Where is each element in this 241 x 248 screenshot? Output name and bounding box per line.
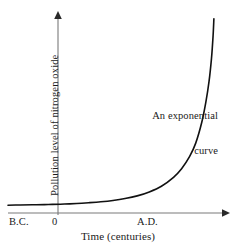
curve-annotation-line-2: curve [118,145,218,157]
curve-annotation: An exponential curve [118,86,218,180]
x-tick-label-zero: 0 [52,216,57,228]
x-axis-arrowhead [222,209,230,217]
y-axis-label: Pollution level of nitrogen oxide [49,0,61,196]
x-tick-label-ad: A.D. [137,216,158,228]
x-tick-label-bc: B.C. [9,216,29,228]
exponential-curve-figure: Pollution level of nitrogen oxide B.C. 0… [0,0,241,248]
x-axis-title: Time (centuries) [58,230,178,242]
curve-annotation-line-1: An exponential [118,110,218,122]
